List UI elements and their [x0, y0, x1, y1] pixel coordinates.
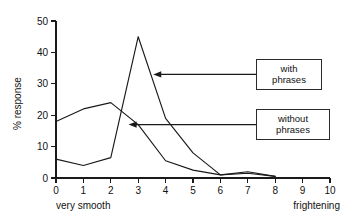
y-tick-label: 30: [37, 78, 49, 89]
series-group: [56, 37, 275, 177]
callout-without-phrases: without phrases: [256, 109, 330, 140]
x-tick-label: 2: [108, 185, 114, 196]
x-axis-ticks: [56, 178, 330, 183]
y-tick-label: 0: [42, 173, 48, 184]
y-axis-title: % response: [12, 77, 23, 130]
y-axis-ticks: [51, 21, 56, 178]
series-line-with-phrases: [56, 37, 275, 177]
arrow-head-with-phrases: [153, 71, 161, 77]
x-tick-label: 6: [218, 185, 224, 196]
x-tick-label: 8: [272, 185, 278, 196]
callout-with-phrases-line1: with: [263, 63, 315, 74]
x-axis-right-caption: frightening: [293, 200, 340, 211]
y-tick-label: 40: [37, 47, 49, 58]
annotation-leaders: [129, 71, 256, 128]
x-axis-tick-labels: 012345678910: [53, 185, 336, 196]
arrow-head-without-phrases: [129, 121, 137, 127]
y-axis-tick-labels: 01020304050: [37, 16, 49, 184]
callout-with-phrases: with phrases: [256, 59, 322, 90]
callout-without-phrases-line1: without: [263, 113, 323, 124]
callout-without-phrases-line2: phrases: [263, 124, 323, 135]
x-tick-label: 1: [81, 185, 87, 196]
series-line-without-phrases: [56, 103, 275, 177]
x-tick-label: 5: [190, 185, 196, 196]
x-tick-label: 0: [53, 185, 59, 196]
x-tick-label: 10: [324, 185, 336, 196]
x-tick-label: 3: [135, 185, 141, 196]
chart-figure: 01020304050 012345678910 % response very…: [0, 0, 346, 224]
x-tick-label: 4: [163, 185, 169, 196]
y-tick-label: 20: [37, 110, 49, 121]
x-axis-left-caption: very smooth: [56, 200, 110, 211]
callout-with-phrases-line2: phrases: [263, 74, 315, 85]
x-tick-label: 9: [300, 185, 306, 196]
x-tick-label: 7: [245, 185, 251, 196]
y-tick-label: 10: [37, 141, 49, 152]
axes-group: [56, 21, 330, 178]
y-tick-label: 50: [37, 16, 49, 27]
